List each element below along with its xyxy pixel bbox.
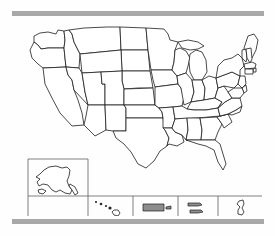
hawaii-island-oahu[interactable]: [100, 203, 103, 206]
alaska-aleutian-chain[interactable]: [38, 189, 46, 194]
hawaii-island-kauai[interactable]: [95, 201, 97, 203]
state-new-mexico[interactable]: [105, 105, 126, 131]
bottom-divider-bar: [12, 219, 264, 224]
virgin-islands-st-thomas[interactable]: [188, 203, 202, 206]
inset-alaska[interactable]: [36, 166, 78, 195]
state-kansas[interactable]: [124, 88, 155, 105]
state-michigan-upper-peninsula[interactable]: [178, 40, 204, 50]
map-canvas: [12, 18, 264, 216]
contiguous-states-group: [30, 27, 258, 170]
hawaii-island-big-island[interactable]: [112, 210, 120, 216]
state-michigan[interactable]: [189, 50, 207, 80]
state-new-hampshire[interactable]: [246, 48, 252, 63]
state-wyoming[interactable]: [80, 50, 122, 73]
state-north-dakota[interactable]: [120, 27, 148, 50]
state-nebraska[interactable]: [122, 71, 153, 89]
state-arizona[interactable]: [84, 105, 106, 136]
state-south-dakota[interactable]: [121, 50, 150, 71]
page-root: [0, 0, 275, 236]
state-wisconsin[interactable]: [172, 48, 190, 76]
puerto-rico-shape[interactable]: [143, 204, 164, 211]
inset-virgin-islands[interactable]: [188, 203, 203, 213]
hawaii-island-molokai[interactable]: [105, 205, 107, 207]
top-divider-bar: [12, 11, 264, 16]
state-alabama[interactable]: [186, 118, 202, 140]
state-connecticut[interactable]: [245, 69, 253, 74]
state-florida[interactable]: [186, 140, 226, 170]
inset-guam[interactable]: [237, 200, 244, 215]
guam-shape[interactable]: [237, 200, 244, 215]
inset-puerto-rico[interactable]: [143, 204, 171, 211]
hawaii-island-maui[interactable]: [108, 206, 111, 209]
virgin-islands-st-croix[interactable]: [190, 210, 203, 213]
united-states-map-svg[interactable]: [12, 18, 264, 216]
inset-hawaii[interactable]: [95, 201, 120, 216]
state-georgia[interactable]: [200, 117, 222, 140]
puerto-rico-vieques[interactable]: [166, 206, 171, 209]
state-massachusetts[interactable]: [244, 62, 256, 69]
state-rhode-island[interactable]: [253, 68, 256, 72]
state-missouri[interactable]: [155, 84, 184, 108]
